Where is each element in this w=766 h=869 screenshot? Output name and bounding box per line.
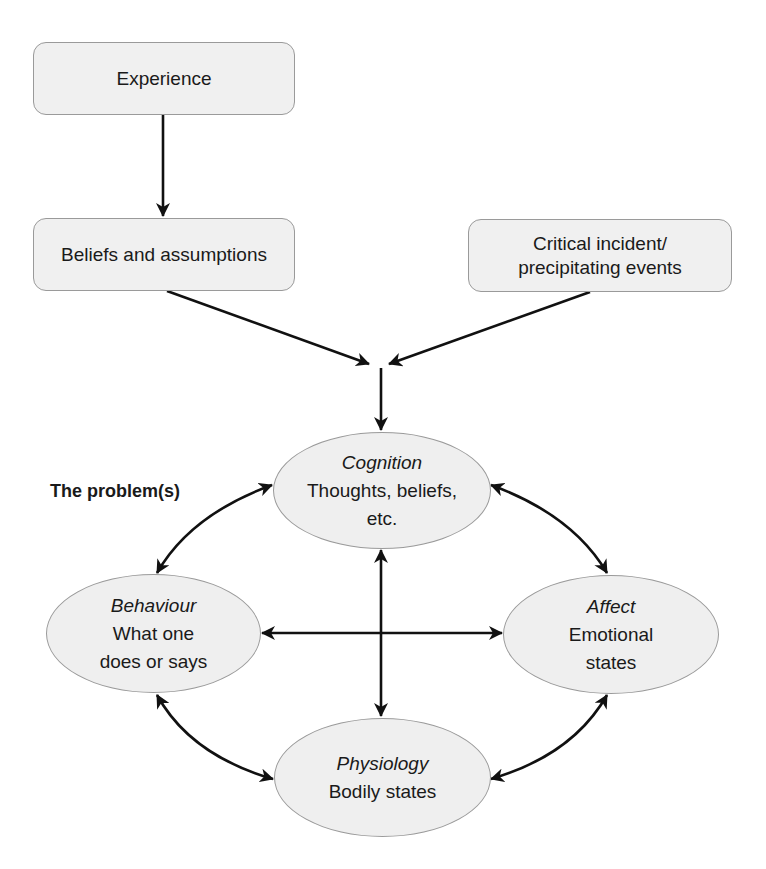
box-beliefs-label: Beliefs and assumptions [61, 243, 267, 267]
box-critical-label-line1: Critical incident/ [533, 232, 667, 256]
problem-label: The problem(s) [50, 481, 180, 502]
node-cognition: Cognition Thoughts, beliefs, etc. [273, 432, 491, 549]
node-affect-title: Affect [587, 593, 636, 621]
box-beliefs-assumptions: Beliefs and assumptions [33, 218, 295, 291]
arrow-affect-physiology [491, 695, 607, 779]
box-critical-incident: Critical incident/ precipitating events [468, 219, 732, 292]
node-physiology-title: Physiology [337, 750, 429, 778]
node-physiology-line1: Bodily states [329, 778, 437, 806]
node-affect: Affect Emotional states [503, 575, 719, 694]
node-physiology: Physiology Bodily states [274, 718, 491, 837]
node-behaviour-line2: does or says [100, 648, 208, 676]
box-experience: Experience [33, 42, 295, 115]
node-cognition-title: Cognition [342, 449, 422, 477]
box-critical-label-line2: precipitating events [518, 256, 682, 280]
node-affect-line2: states [586, 649, 637, 677]
node-cognition-line1: Thoughts, beliefs, [307, 477, 457, 505]
arrow-cognition-affect [491, 485, 607, 573]
node-cognition-line2: etc. [367, 505, 398, 533]
node-behaviour-line1: What one [113, 620, 194, 648]
box-experience-label: Experience [116, 67, 211, 91]
arrow-critical-cognition [389, 292, 590, 364]
arrow-behaviour-physiology [157, 695, 273, 779]
node-behaviour-title: Behaviour [111, 592, 197, 620]
arrow-beliefs-cognition [167, 291, 369, 364]
node-affect-line1: Emotional [569, 621, 654, 649]
node-behaviour: Behaviour What one does or says [46, 574, 261, 693]
